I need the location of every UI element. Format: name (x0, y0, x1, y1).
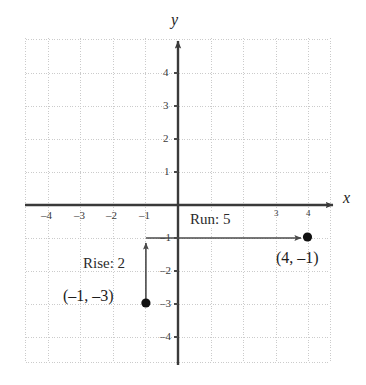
x-tick-label--4: –4 (41, 210, 52, 221)
point-marker-a (141, 298, 150, 307)
y-tick-label-1: 1 (164, 166, 170, 177)
y-tick-label-2: 2 (163, 133, 169, 144)
point-marker-b (303, 232, 312, 241)
x-axis-label: x (343, 190, 350, 206)
y-tick-label--4: –4 (160, 331, 171, 342)
coordinate-plane-svg (0, 0, 366, 385)
x-tick-label--2: –2 (106, 210, 117, 221)
y-tick-label-4: 4 (163, 67, 169, 78)
y-tick-label--2: –2 (160, 265, 171, 276)
y-tick-label--3: –3 (160, 298, 171, 309)
point-label-b: (4, –1) (276, 250, 319, 266)
point-label-a: (–1, –3) (63, 288, 114, 304)
x-tick-label-3: 3 (274, 209, 279, 218)
y-tick-label-3: 3 (163, 100, 169, 111)
axis-lines (25, 41, 333, 365)
y-axis-label: y (171, 12, 178, 28)
graph-canvas: y x –4 –3 –2 –1 3 4 4 3 2 1 –1 –2 –3 –4 … (0, 0, 366, 385)
rise-annotation-label: Rise: 2 (83, 256, 125, 271)
x-tick-label-4: 4 (306, 209, 311, 218)
x-tick-label--1: –1 (139, 210, 150, 221)
run-annotation-label: Run: 5 (189, 212, 231, 227)
x-tick-label--3: –3 (74, 210, 85, 221)
y-tick-label--1: –1 (160, 232, 171, 243)
